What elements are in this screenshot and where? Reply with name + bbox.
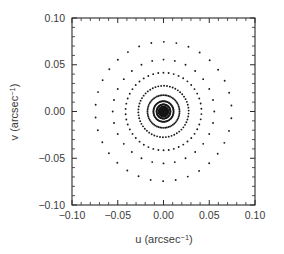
data-point: [131, 151, 133, 153]
data-point: [125, 103, 127, 105]
data-point: [200, 108, 202, 110]
data-point: [167, 111, 169, 113]
data-point: [142, 125, 144, 127]
data-point: [163, 127, 165, 129]
data-point: [137, 111, 139, 113]
data-point: [116, 162, 118, 164]
data-point: [164, 94, 166, 96]
data-point: [212, 122, 214, 124]
plot-frame: [72, 18, 255, 205]
data-point: [97, 91, 99, 93]
data-point: [224, 80, 226, 82]
data-point: [132, 133, 134, 135]
data-point: [175, 42, 177, 44]
data-point: [194, 151, 196, 153]
data-point: [182, 77, 184, 79]
x-tick-label: 0.05: [199, 209, 220, 221]
data-point: [163, 41, 165, 43]
data-point: [150, 42, 152, 44]
data-point: [223, 142, 225, 144]
data-point: [178, 116, 180, 118]
data-point: [166, 85, 168, 87]
data-point: [179, 91, 181, 93]
data-point: [171, 135, 173, 137]
data-point: [177, 89, 179, 91]
data-point: [198, 170, 200, 172]
data-point: [168, 72, 170, 74]
data-point: [187, 141, 189, 143]
data-point: [102, 79, 104, 81]
data-point: [163, 94, 165, 96]
data-point: [140, 100, 142, 102]
data-point: [151, 161, 153, 163]
data-point: [213, 111, 215, 113]
y-tick-label: −0.10: [38, 199, 65, 211]
data-point: [179, 111, 181, 113]
data-point: [143, 77, 145, 79]
data-point: [117, 59, 119, 61]
data-point: [178, 131, 180, 133]
data-point: [186, 119, 188, 121]
data-point: [174, 88, 176, 90]
data-point: [147, 109, 149, 111]
data-point: [164, 111, 166, 113]
data-point: [123, 143, 125, 145]
x-axis-title: u (arcsec−1): [135, 233, 192, 246]
data-point: [208, 162, 210, 164]
data-point: [169, 111, 171, 113]
data-point: [125, 108, 127, 110]
data-point: [200, 103, 202, 105]
x-tick-label: −0.05: [104, 209, 131, 221]
data-point: [137, 108, 139, 110]
y-axis-tick-labels: −0.10−0.050.000.050.10: [38, 12, 65, 211]
data-point: [166, 95, 168, 97]
data-point: [157, 72, 159, 74]
data-point: [117, 133, 119, 135]
data-point: [139, 80, 141, 82]
data-point: [198, 98, 200, 100]
data-point: [187, 107, 189, 109]
data-point: [163, 59, 165, 61]
data-point: [147, 111, 149, 113]
data-point: [145, 92, 147, 94]
data-point: [147, 105, 149, 107]
data-point: [194, 88, 196, 90]
data-point: [190, 137, 192, 139]
data-point: [230, 104, 232, 106]
data-point: [168, 95, 170, 97]
data-point: [163, 149, 165, 151]
data-point: [108, 68, 110, 70]
data-point: [165, 136, 167, 138]
data-points: [95, 41, 233, 182]
data-point: [172, 87, 174, 89]
plot-canvas: −0.10−0.050.000.050.10 −0.10−0.050.000.0…: [0, 0, 284, 254]
data-point: [159, 127, 161, 129]
data-point: [186, 80, 188, 82]
data-point: [157, 149, 159, 151]
data-point: [187, 116, 189, 118]
data-point: [178, 114, 180, 116]
data-point: [173, 73, 175, 75]
y-tick-label: −0.05: [38, 152, 65, 164]
data-point: [168, 149, 170, 151]
data-point: [175, 179, 177, 181]
data-point: [147, 146, 149, 148]
data-point: [180, 129, 182, 131]
data-point: [173, 148, 175, 150]
data-point: [148, 132, 150, 134]
data-point: [161, 127, 163, 129]
data-point: [138, 45, 140, 47]
data-point: [151, 133, 153, 135]
data-point: [178, 109, 180, 111]
data-point: [147, 90, 149, 92]
data-point: [174, 161, 176, 163]
data-point: [140, 123, 142, 125]
data-point: [196, 93, 198, 95]
data-point: [127, 124, 129, 126]
data-point: [152, 148, 154, 150]
data-point: [217, 69, 219, 71]
data-point: [131, 88, 133, 90]
y-tick-label: 0.05: [45, 58, 66, 70]
data-point: [112, 111, 114, 113]
y-tick-label: 0.00: [45, 105, 66, 117]
